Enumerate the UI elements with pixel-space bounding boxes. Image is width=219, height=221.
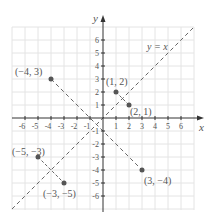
y-tick: 2 (95, 88, 99, 97)
x-tick: 3 (140, 122, 144, 131)
x-tick: 1 (114, 122, 118, 131)
y-tick: 6 (95, 36, 99, 45)
y-tick: -3 (92, 153, 99, 162)
point-label: (3, −4) (144, 175, 171, 187)
point-neg4-3 (49, 77, 54, 82)
line-label: y = x (146, 41, 168, 52)
x-tick: -5 (32, 122, 39, 131)
point-neg3-neg5 (62, 181, 67, 186)
y-tick: -1 (92, 127, 99, 136)
point-label: (−4, 3) (15, 66, 42, 78)
y-tick: -5 (92, 179, 99, 188)
coordinate-plane: -6 -5 -4 -3 -2 -1 1 2 3 4 5 6 6 5 4 3 2 … (0, 0, 219, 221)
x-tick: 4 (153, 122, 157, 131)
point-1-2 (114, 90, 119, 95)
x-tick: -1 (84, 122, 91, 131)
x-axis-label: x (198, 121, 204, 133)
y-tick: 3 (95, 75, 99, 84)
point-label: (2, 1) (130, 106, 152, 118)
y-tick: 5 (95, 49, 99, 58)
x-tick: -6 (19, 122, 26, 131)
y-tick: 4 (95, 62, 99, 71)
y-axis-label: y (92, 12, 98, 24)
x-tick: 5 (166, 122, 170, 131)
point-label: (−5, −3) (12, 146, 45, 158)
x-tick: 6 (179, 122, 183, 131)
x-axis-arrow-icon (197, 116, 204, 121)
point-3-neg4 (140, 168, 145, 173)
y-tick: -6 (92, 192, 99, 201)
y-axis-arrow-icon (101, 15, 106, 22)
y-tick: -2 (92, 140, 99, 149)
x-tick: -2 (71, 122, 78, 131)
y-tick: -4 (92, 166, 99, 175)
y-tick: 1 (95, 101, 99, 110)
x-tick: 2 (127, 122, 131, 131)
x-tick: -4 (45, 122, 52, 131)
point-label: (−3, −5) (43, 188, 76, 200)
x-tick-labels: -6 -5 -4 -3 -2 -1 1 2 3 4 5 6 (19, 122, 183, 131)
x-tick: -3 (58, 122, 65, 131)
point-label: (1, 2) (106, 76, 128, 88)
